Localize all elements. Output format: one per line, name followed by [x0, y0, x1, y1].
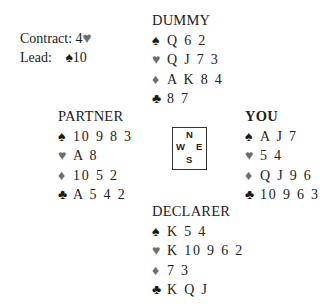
clubs-holding: 8 7 [167, 91, 190, 106]
spade-icon: ♠ [65, 50, 72, 65]
diamond-icon: ♦ [58, 166, 73, 186]
hand-title: PARTNER [58, 107, 133, 127]
heart-icon: ♥ [245, 146, 260, 166]
diamonds-holding: Q J 9 6 [260, 168, 313, 183]
contract-info: Contract: 4♥ Lead: ♠10 [20, 29, 92, 67]
compass-east: E [196, 141, 202, 152]
diamond-icon: ♦ [152, 261, 167, 281]
spade-icon: ♠ [152, 31, 167, 51]
hearts-holding: K 10 9 6 2 [167, 243, 244, 258]
club-icon: ♣ [152, 89, 167, 109]
compass-box: N W E S [172, 127, 207, 170]
compass-north: N [186, 129, 193, 140]
hearts-holding: Q J 7 3 [167, 52, 220, 67]
spades-holding: Q 6 2 [167, 33, 207, 48]
clubs-holding: A 5 4 2 [73, 187, 126, 202]
spades-holding: A J 7 [260, 129, 298, 144]
club-icon: ♣ [58, 185, 73, 205]
heart-icon: ♥ [152, 241, 167, 261]
diamond-icon: ♦ [245, 166, 260, 186]
spade-icon: ♠ [245, 127, 260, 147]
spades-holding: K 5 4 [167, 224, 207, 239]
heart-icon: ♥ [58, 146, 73, 166]
lead-label: Lead: [20, 50, 52, 65]
hand-title: DUMMY [152, 11, 224, 31]
diamond-icon: ♦ [152, 70, 167, 90]
hand-title: DECLARER [152, 202, 244, 222]
compass-south: S [186, 154, 192, 165]
compass-west: W [176, 141, 185, 152]
hand-title: YOU [245, 107, 320, 127]
hand-west-partner: PARTNER ♠10 9 8 3 ♥A 8 ♦10 5 2 ♣A 5 4 2 [58, 107, 133, 205]
club-icon: ♣ [245, 185, 260, 205]
diamonds-holding: A K 8 4 [167, 72, 224, 87]
contract-label: Contract: 4 [20, 31, 83, 46]
hearts-holding: A 8 [73, 148, 98, 163]
clubs-holding: K Q J [167, 282, 209, 297]
spade-icon: ♠ [58, 127, 73, 147]
clubs-holding: 10 9 6 3 [260, 187, 320, 202]
spade-icon: ♠ [152, 222, 167, 242]
heart-icon: ♥ [152, 50, 167, 70]
club-icon: ♣ [152, 280, 167, 300]
hand-south-declarer: DECLARER ♠K 5 4 ♥K 10 9 6 2 ♦7 3 ♣K Q J [152, 202, 244, 300]
lead-card: 10 [73, 50, 87, 65]
diamonds-holding: 10 5 2 [73, 168, 119, 183]
spades-holding: 10 9 8 3 [73, 129, 133, 144]
contract-line: Contract: 4♥ [20, 29, 92, 48]
diamonds-holding: 7 3 [167, 263, 190, 278]
hearts-holding: 5 4 [260, 148, 283, 163]
hand-east-you: YOU ♠A J 7 ♥5 4 ♦Q J 9 6 ♣10 9 6 3 [245, 107, 320, 205]
hand-north-dummy: DUMMY ♠Q 6 2 ♥Q J 7 3 ♦A K 8 4 ♣8 7 [152, 11, 224, 109]
lead-line: Lead: ♠10 [20, 48, 92, 67]
heart-icon: ♥ [83, 30, 92, 46]
